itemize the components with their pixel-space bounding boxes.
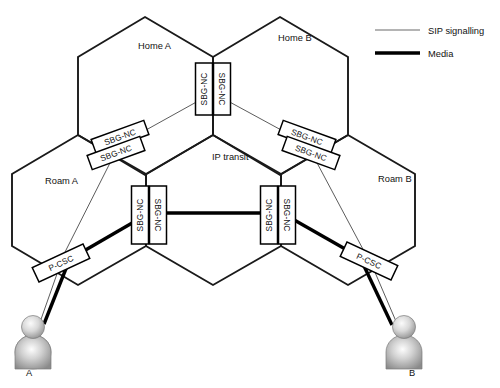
network-diagram: SBG-NCSBG-NCSBG-NCSBG-NCSBG-NCSBG-NCSBG-…	[0, 0, 500, 388]
area-label-home-a: Home A	[138, 41, 172, 51]
avatar-head-a	[22, 316, 45, 339]
avatar-head-b	[393, 316, 416, 339]
sip-link-sbg-left-home-top	[146, 100, 200, 130]
node-sbg-mid-right-a[interactable]: SBG-NC	[261, 186, 278, 244]
media-links	[44, 213, 392, 325]
node-label-sbg-home-top-right: SBG-NC	[217, 73, 227, 106]
avatar-shoulders-b	[386, 335, 422, 369]
endpoint-label-user-a: A	[26, 368, 33, 378]
node-sbg-mid-right-b[interactable]: SBG-NC	[279, 186, 296, 244]
endpoint-label-user-b: B	[409, 368, 415, 378]
avatar-shoulders-a	[15, 335, 51, 369]
area-label-roam-a: Roam A	[45, 176, 79, 186]
node-label-sbg-mid-left-b: SBG-NC	[153, 199, 163, 232]
legend-label-media: Media	[428, 49, 454, 59]
sip-link-sbg-right-pcsc-b	[316, 161, 365, 253]
node-sbg-home-top-left[interactable]: SBG-NC	[196, 63, 213, 115]
node-sbg-mid-left-a[interactable]: SBG-NC	[132, 186, 149, 244]
node-label-sbg-mid-left-a: SBG-NC	[135, 199, 145, 232]
node-sbg-mid-left-b[interactable]: SBG-NC	[150, 186, 167, 244]
area-label-ip-transit: IP transit	[212, 152, 249, 162]
network-diagram-canvas: SBG-NCSBG-NCSBG-NCSBG-NCSBG-NCSBG-NCSBG-…	[0, 0, 500, 388]
node-label-sbg-home-top-left: SBG-NC	[199, 73, 209, 106]
node-sbg-home-top-right[interactable]: SBG-NC	[214, 63, 231, 115]
legend-label-sip-signalling: SIP signalling	[428, 26, 484, 36]
area-label-roam-b: Roam B	[378, 174, 412, 184]
node-pcsc-a[interactable]: P-CSC	[32, 244, 90, 282]
node-label-sbg-mid-right-b: SBG-NC	[282, 199, 292, 232]
area-label-home-b: Home B	[278, 33, 312, 43]
node-label-sbg-mid-right-a: SBG-NC	[264, 199, 274, 232]
endpoint-labels: AB	[26, 368, 415, 378]
legend: SIP signalling Media	[375, 26, 484, 59]
sip-link-home-top-sbg-right	[226, 100, 283, 131]
